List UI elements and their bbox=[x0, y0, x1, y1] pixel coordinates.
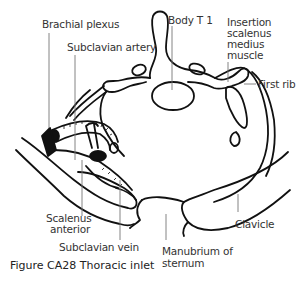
vertebral-body bbox=[152, 82, 194, 110]
label-manubrium-line1: Manubrium of bbox=[162, 245, 233, 257]
label-brachial-plexus: Brachial plexus bbox=[42, 18, 119, 30]
scalenus-anterior bbox=[86, 123, 98, 148]
label-manubrium-line2: sternum bbox=[162, 257, 204, 269]
label-body-t1: Body T 1 bbox=[168, 14, 213, 26]
figure-caption: Figure CA28 Thoracic inlet bbox=[10, 259, 154, 272]
label-insertion-line4: muscle bbox=[227, 49, 263, 61]
manubrium bbox=[142, 197, 184, 202]
label-clavicle: Clavicle bbox=[235, 218, 274, 230]
label-subclavian-vein: Subclavian vein bbox=[59, 241, 139, 253]
label-first-rib: First rib bbox=[258, 78, 296, 90]
label-scalenus-line2: anterior bbox=[50, 223, 90, 235]
label-subclavian-artery: Subclavian artery bbox=[67, 41, 156, 53]
thoracic-inlet-figure: Brachial plexus Subclavian artery Body T… bbox=[0, 0, 307, 291]
